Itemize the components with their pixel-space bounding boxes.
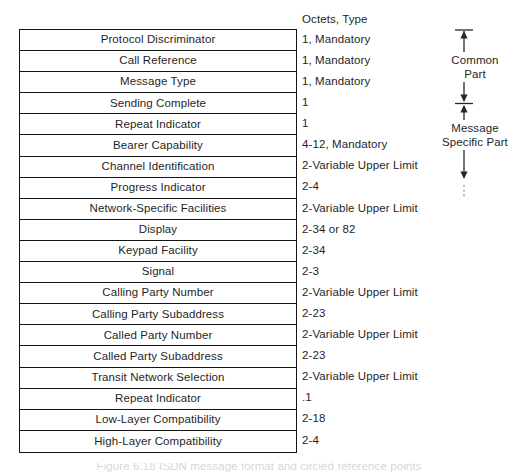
table-row: Signal	[20, 262, 296, 283]
octet-value: 1	[302, 97, 309, 109]
octet-row: 2-34	[302, 240, 452, 261]
table-row: Transit Network Selection	[20, 368, 296, 389]
field-name: Called Party Subaddress	[93, 351, 223, 363]
octet-row: 2-Variable Upper Limit	[302, 324, 452, 345]
octet-row: 2-34 or 82	[302, 219, 452, 240]
table-row: Message Type	[20, 72, 296, 93]
octet-row: .1	[302, 388, 452, 409]
field-name: Signal	[142, 266, 175, 278]
octet-row: 1, Mandatory	[302, 50, 452, 71]
table-row: Display	[20, 220, 296, 241]
common-part-up-arrowhead	[460, 31, 467, 39]
octet-value: .1	[302, 392, 312, 404]
octet-row: 2-Variable Upper Limit	[302, 198, 452, 219]
msgspec-up-arrowhead	[460, 105, 467, 113]
part-annotations: Common Part Message Specific Part	[432, 0, 518, 476]
message-specific-part-label-line1: Message	[451, 122, 498, 134]
table-row: Bearer Capability	[20, 135, 296, 156]
octet-value: 2-4	[302, 181, 319, 193]
field-name: Repeat Indicator	[115, 393, 201, 405]
field-name: Called Party Number	[104, 330, 213, 342]
octet-value: 2-23	[302, 308, 325, 320]
field-name: Transit Network Selection	[91, 372, 224, 384]
octet-row: 1	[302, 92, 452, 113]
octet-row: 2-Variable Upper Limit	[302, 367, 452, 388]
table-row: Calling Party Subaddress	[20, 304, 296, 325]
octet-value: 4-12, Mandatory	[302, 139, 387, 151]
octet-row: 2-23	[302, 345, 452, 366]
message-specific-part-label-line2: Specific Part	[442, 136, 508, 148]
figure-caption-text: Figure 6.18 ISDN message format and circ…	[0, 463, 518, 472]
field-name: Bearer Capability	[113, 140, 203, 152]
common-part-label: Common Part	[432, 54, 518, 81]
table-row: Keypad Facility	[20, 241, 296, 262]
octet-value: 2-18	[302, 413, 325, 425]
table-row: Protocol Discriminator	[20, 30, 296, 51]
octet-value: 1	[302, 118, 309, 130]
table-row: Sending Complete	[20, 93, 296, 114]
table-row: Channel Identification	[20, 157, 296, 178]
message-field-table: Protocol DiscriminatorCall ReferenceMess…	[19, 29, 297, 453]
field-name: Sending Complete	[110, 98, 206, 110]
table-row: Calling Party Number	[20, 283, 296, 304]
field-name: Calling Party Number	[102, 287, 213, 299]
octet-value: 2-34 or 82	[302, 224, 355, 236]
octet-value: 2-Variable Upper Limit	[302, 287, 418, 299]
field-name: Keypad Facility	[118, 245, 197, 257]
figure-caption: Figure 6.18 ISDN message format and circ…	[0, 463, 518, 476]
field-name: High-Layer Compatibility	[94, 436, 222, 448]
octet-row: 1, Mandatory	[302, 71, 452, 92]
octet-value: 2-Variable Upper Limit	[302, 203, 418, 215]
field-name: Display	[139, 224, 177, 236]
octet-row: 2-Variable Upper Limit	[302, 156, 452, 177]
octet-value: 2-Variable Upper Limit	[302, 160, 418, 172]
octet-value: 1, Mandatory	[302, 76, 370, 88]
table-row: Repeat Indicator	[20, 114, 296, 135]
table-row: Repeat Indicator	[20, 389, 296, 410]
octet-row: 2-3	[302, 261, 452, 282]
table-row: Called Party Subaddress	[20, 346, 296, 367]
table-row: Call Reference	[20, 51, 296, 72]
octet-value: 2-Variable Upper Limit	[302, 371, 418, 383]
common-part-down-arrowhead	[460, 95, 467, 103]
common-part-label-line2: Part	[464, 68, 486, 80]
octets-type-column-header: Octets, Type	[302, 13, 368, 25]
message-specific-part-label: Message Specific Part	[428, 122, 518, 149]
octet-value: 2-Variable Upper Limit	[302, 329, 418, 341]
octet-row: 1, Mandatory	[302, 29, 452, 50]
table-row: Low-Layer Compatibility	[20, 410, 296, 431]
table-row: Called Party Number	[20, 325, 296, 346]
table-row: High-Layer Compatibility	[20, 431, 296, 452]
field-name: Progress Indicator	[110, 182, 205, 194]
octet-row: 2-4	[302, 177, 452, 198]
common-part-label-line1: Common	[451, 54, 498, 66]
field-name: Message Type	[120, 76, 196, 88]
field-name: Calling Party Subaddress	[92, 309, 224, 321]
table-row: Progress Indicator	[20, 178, 296, 199]
octet-value: 2-23	[302, 350, 325, 362]
octet-value: 2-4	[302, 435, 319, 447]
table-row: Network-Specific Facilities	[20, 199, 296, 220]
octet-row: 2-Variable Upper Limit	[302, 282, 452, 303]
octet-row: 2-18	[302, 409, 452, 430]
octet-value: 2-3	[302, 266, 319, 278]
octet-value: 1, Mandatory	[302, 55, 370, 67]
field-name: Network-Specific Facilities	[90, 203, 227, 215]
field-name: Low-Layer Compatibility	[95, 414, 220, 426]
isdn-message-format-figure: Octets, Type Protocol DiscriminatorCall …	[0, 0, 518, 476]
field-name: Protocol Discriminator	[101, 34, 216, 46]
field-name: Repeat Indicator	[115, 119, 201, 131]
octet-value: 2-34	[302, 245, 325, 257]
octet-row: 2-23	[302, 303, 452, 324]
msgspec-down-arrowhead	[460, 172, 467, 180]
octet-description-column: 1, Mandatory1, Mandatory1, Mandatory114-…	[302, 29, 452, 451]
octet-row: 2-4	[302, 430, 452, 451]
field-name: Channel Identification	[102, 161, 215, 173]
field-name: Call Reference	[119, 55, 196, 67]
octet-value: 1, Mandatory	[302, 34, 370, 46]
